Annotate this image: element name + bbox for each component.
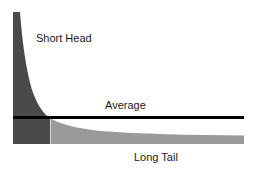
long-tail-label: Long Tail [134,151,178,163]
long-tail-area [50,118,244,144]
short-head-label: Short Head [36,32,92,44]
average-label: Average [105,99,146,111]
long-tail-diagram: Short Head Average Long Tail [0,0,256,174]
